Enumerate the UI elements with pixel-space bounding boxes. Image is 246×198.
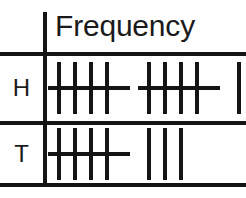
tally-cell-heads [47, 56, 246, 120]
row-label-heads: H [0, 56, 43, 120]
tally-strike [138, 86, 220, 90]
tally-mark [147, 128, 151, 180]
tally-mark [237, 62, 241, 114]
row-label-heads-text: H [13, 76, 30, 100]
tally-singles [237, 62, 246, 114]
table-rule-bottom [0, 183, 246, 187]
row-label-tails: T [0, 125, 43, 182]
tally-mark [179, 128, 183, 180]
tally-strike [48, 152, 130, 156]
tally-bundle [57, 128, 121, 180]
tally-singles [147, 128, 183, 180]
tally-strike [48, 86, 130, 90]
tally-bundle [147, 62, 211, 114]
tally-frequency-table: Frequency H T [0, 0, 246, 198]
tally-mark [163, 128, 167, 180]
row-label-tails-text: T [14, 142, 29, 166]
tally-bundle [57, 62, 121, 114]
column-header-frequency: Frequency [55, 11, 195, 41]
table-header-cell: Frequency [55, 1, 240, 50]
tally-cell-tails [47, 125, 246, 182]
